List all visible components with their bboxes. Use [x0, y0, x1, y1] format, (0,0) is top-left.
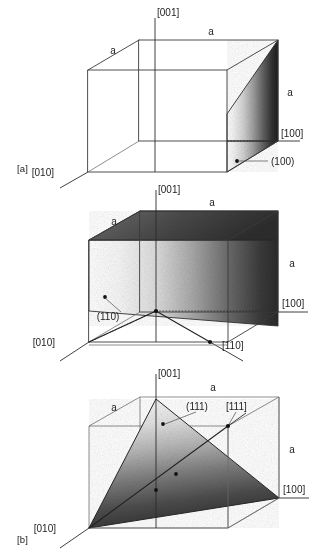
- panel-b-drawing: [001] [010] [100] [110] a a a (110): [0, 185, 326, 375]
- plane-100-shaded-face: [227, 40, 278, 172]
- lattice-a-top-front-a: a: [208, 26, 214, 37]
- lattice-a-right-a: a: [287, 87, 293, 98]
- plane-100-label-a: (100): [271, 156, 294, 167]
- axis-100-label-c: [100]: [283, 484, 305, 495]
- lattice-a-top-back-c: a: [111, 402, 117, 413]
- lattice-a-right-c: a: [289, 444, 295, 455]
- axis-010-line-b: [60, 342, 89, 361]
- plane-100-marker-dot-a: [235, 159, 239, 163]
- plane-111-marker-dot-c: [161, 422, 165, 426]
- diagonal-lower-dot-c: [154, 488, 158, 492]
- lattice-a-right-b: a: [289, 258, 295, 269]
- axis-001-label-a: [001]: [157, 7, 179, 18]
- diagonal-corner-dot-c: [226, 424, 230, 428]
- plane-110-label-b: (110): [97, 311, 120, 322]
- crystallographic-planes-figure: [001] [010] [100] a a a (100) [a]: [0, 0, 326, 557]
- panel-b-110-plane: [001] [010] [100] [110] a a a (110) [b]: [0, 185, 326, 375]
- plane-111-shaded-face: [89, 399, 279, 528]
- axis-111-extension-c: [228, 413, 246, 426]
- lattice-a-top-front-c: a: [210, 382, 216, 393]
- lattice-a-top-back-a: a: [110, 45, 116, 56]
- panel-c-111-plane: [001] [010] [100] [111] (111) a a a [c]: [0, 368, 326, 557]
- panel-c-drawing: [001] [010] [100] [111] (111) a a a: [0, 368, 326, 557]
- diagonal-front-dot-b: [208, 340, 212, 344]
- axis-010-line-c: [60, 528, 89, 548]
- axis-010-label-b: [010]: [33, 337, 55, 348]
- panel-a-drawing: [001] [010] [100] a a a (100): [0, 0, 326, 190]
- lattice-a-top-back-b: a: [111, 216, 117, 227]
- axis-111-label-c: [111]: [226, 401, 247, 412]
- axis-001-label-b: [001]: [158, 185, 180, 195]
- axis-010-label-a: [010]: [32, 167, 54, 178]
- axis-001-label-c: [001]: [158, 368, 180, 379]
- axis-010-label-c: [010]: [34, 523, 56, 534]
- panel-a-100-plane: [001] [010] [100] a a a (100) [a]: [0, 0, 326, 190]
- diagonal-origin-dot-b: [154, 309, 158, 313]
- axis-100-label-a: [100]: [281, 128, 303, 139]
- panel-tag-a: [a]: [17, 163, 28, 174]
- lattice-a-top-front-b: a: [209, 197, 215, 208]
- axis-110-label-b: [110]: [222, 340, 244, 351]
- diagonal-mid-dot-c: [174, 472, 178, 476]
- axis-100-label-b: [100]: [282, 298, 304, 309]
- plane-111-label-c: (111): [186, 401, 208, 412]
